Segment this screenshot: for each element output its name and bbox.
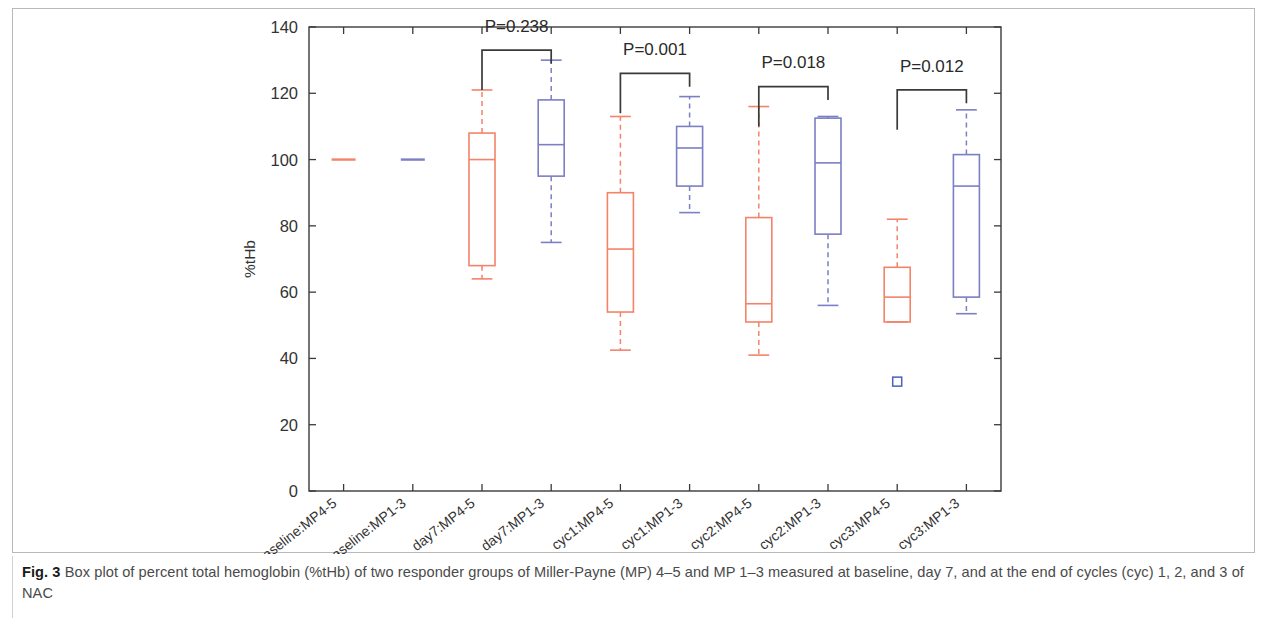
- box-iqr-rect: [607, 193, 633, 312]
- box-iqr-rect: [746, 218, 772, 322]
- box-plot-box: [953, 110, 979, 314]
- y-tick-label: 60: [280, 283, 298, 301]
- y-tick-label: 20: [280, 416, 298, 434]
- box-plot-series: [332, 60, 980, 386]
- bracket-path: [482, 50, 551, 90]
- box-plot-box: [538, 60, 564, 242]
- y-tick-label: 40: [280, 349, 298, 367]
- y-axis-label: %tHb: [241, 240, 258, 278]
- y-tick-label: 80: [280, 217, 298, 235]
- p-value-label: P=0.012: [900, 57, 964, 76]
- y-axis-title: %tHb: [241, 240, 258, 278]
- significance-bracket: P=0.018: [759, 53, 828, 126]
- box-iqr-rect: [884, 267, 910, 322]
- box-iqr-rect: [538, 100, 564, 176]
- x-tick-label: cyc1:MP1-3: [617, 495, 685, 553]
- x-tick-label: baseline:MP4-5: [253, 495, 340, 554]
- figure-caption-label: Fig. 3: [22, 564, 61, 580]
- x-tick-label: cyc3:MP4-5: [825, 495, 893, 553]
- box-plot-box: [607, 116, 633, 350]
- y-tick-label: 120: [270, 84, 298, 102]
- significance-bracket: P=0.001: [620, 40, 689, 113]
- box-plot-box: [884, 219, 910, 386]
- p-value-label: P=0.238: [485, 17, 549, 36]
- caption-accent-rule: [12, 556, 13, 618]
- box-plot-svg: 020406080100120140 %tHb baseline:MP4-5ba…: [13, 9, 1256, 554]
- x-tick-label: day7:MP4-5: [409, 495, 479, 554]
- y-tick-label: 0: [289, 482, 298, 500]
- x-axis-ticks: [344, 27, 967, 491]
- outlier-marker: [893, 377, 902, 386]
- x-tick-label: cyc1:MP4-5: [548, 495, 616, 553]
- figure-caption-text: Box plot of percent total hemoglobin (%t…: [22, 564, 1244, 601]
- significance-bracket: P=0.012: [897, 57, 966, 130]
- x-tick-label: cyc2:MP4-5: [687, 495, 755, 553]
- box-iqr-rect: [815, 118, 841, 234]
- box-plot-box: [815, 116, 841, 305]
- figure-caption: Fig. 3 Box plot of percent total hemoglo…: [22, 562, 1252, 604]
- box-iqr-rect: [469, 133, 495, 266]
- x-tick-label: day7:MP1-3: [478, 495, 548, 554]
- x-axis-tick-labels: baseline:MP4-5baseline:MP1-3day7:MP4-5da…: [253, 495, 962, 554]
- box-iqr-rect: [677, 126, 703, 186]
- x-tick-label: cyc3:MP1-3: [894, 495, 962, 553]
- box-plot-box: [469, 90, 495, 279]
- y-axis-ticks: 020406080100120140: [270, 18, 1001, 500]
- x-tick-label: cyc2:MP1-3: [756, 495, 824, 553]
- y-tick-label: 140: [270, 18, 298, 36]
- p-value-label: P=0.001: [623, 40, 687, 59]
- significance-bracket: P=0.238: [482, 17, 551, 90]
- figure-frame: 020406080100120140 %tHb baseline:MP4-5ba…: [12, 8, 1255, 553]
- y-tick-label: 100: [270, 151, 298, 169]
- p-value-label: P=0.018: [761, 53, 825, 72]
- box-plot-chart: 020406080100120140 %tHb baseline:MP4-5ba…: [13, 9, 1256, 554]
- box-plot-box: [677, 97, 703, 213]
- significance-brackets: P=0.238P=0.001P=0.018P=0.012: [482, 17, 966, 130]
- bracket-path: [620, 73, 689, 113]
- box-plot-box: [746, 107, 772, 356]
- box-iqr-rect: [953, 155, 979, 298]
